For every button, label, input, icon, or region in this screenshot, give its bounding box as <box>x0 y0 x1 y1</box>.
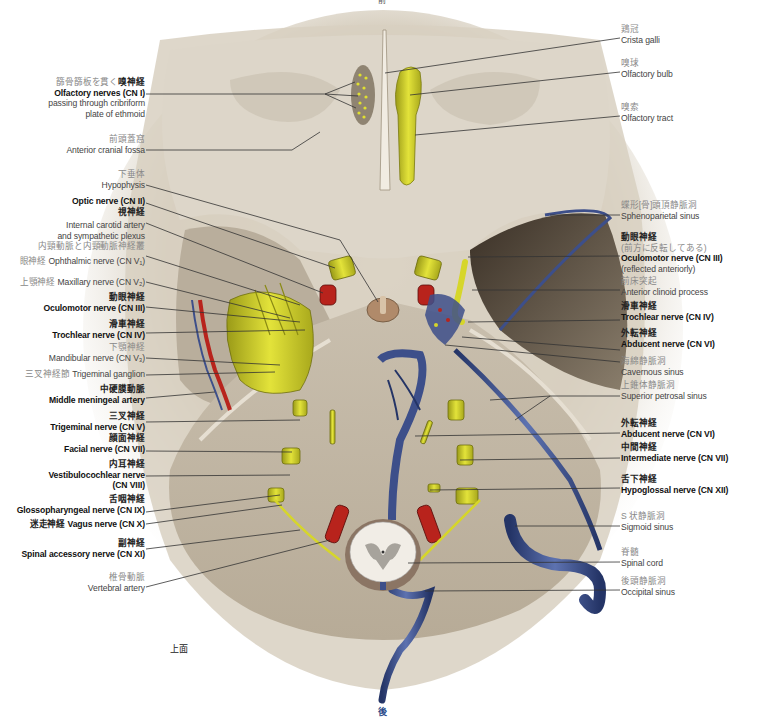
label-trochlear-nerve-right: 滑車神経 Trochlear nerve (CN IV) <box>621 301 714 322</box>
label-jp: 副神経 <box>21 538 145 549</box>
label-superior-petrosal-sinus: 上錐体静脈洞 Superior petrosal sinus <box>621 380 707 401</box>
label-mandibular-nerve: 下顎神経 Mandibular nerve (CN V₃) <box>49 342 145 363</box>
label-en: Mandibular nerve (CN V₃) <box>49 353 145 364</box>
label-jp: 眼神経 <box>20 256 47 266</box>
label-oculomotor-nerve-left: 動眼神経 Oculomotor nerve (CN III) <box>43 292 145 313</box>
label-jp: S 状静脈洞 <box>621 511 673 522</box>
label-jp: 三叉神経 <box>50 411 145 422</box>
label-hypophysis: 下垂体 Hypophysis <box>102 169 145 190</box>
label-jp: 舌下神経 <box>621 474 728 485</box>
label-jp: 動眼神経 <box>621 232 723 243</box>
label-sphenoparietal-sinus: 蝶形[骨]頭頂静脈洞 Sphenoparietal sinus <box>621 200 699 221</box>
label-en: Spinal cord <box>621 558 663 569</box>
label-en: Hypoglossal nerve (CN XII) <box>621 485 728 496</box>
label-jp: 前床突起 <box>621 276 708 287</box>
label-en-line2: passing through cribriform <box>48 98 145 109</box>
spinal-cord <box>345 519 421 591</box>
label-jp: 嗅球 <box>621 58 673 69</box>
label-en: Hypophysis <box>102 180 145 191</box>
label-olfactory-bulb: 嗅球 Olfactory bulb <box>621 58 673 79</box>
label-en: Glossopharyngeal nerve (CN IX) <box>17 505 145 516</box>
label-en: Occipital sinus <box>621 587 675 598</box>
label-glossopharyngeal-nerve: 舌咽神経 Glossopharyngeal nerve (CN IX) <box>17 494 145 515</box>
view-label-superior: 上面 <box>170 642 188 655</box>
label-jp-line2: (前方に反転してある) <box>621 243 723 254</box>
label-jp: 外転神経 <box>621 328 715 339</box>
label-en: Superior petrosal sinus <box>621 391 707 402</box>
label-en: Oculomotor nerve (CN III) <box>43 303 145 314</box>
label-en: Anterior cranial fossa <box>66 145 145 156</box>
label-jp: 外転神経 <box>621 418 715 429</box>
label-jp: 鶏冠 <box>621 24 660 35</box>
label-facial-nerve: 顔面神経 Facial nerve (CN VII) <box>64 433 145 454</box>
label-en: Cavernous sinus <box>621 367 684 378</box>
label-vagus-nerve: 迷走神経 Vagus nerve (CN X) <box>30 519 145 530</box>
label-oculomotor-nerve-reflected: 動眼神経 (前方に反転してある) Oculomotor nerve (CN II… <box>621 232 723 274</box>
label-jp: 前頭蓋窩 <box>66 134 145 145</box>
label-jp-bold: 嗅神経 <box>118 77 145 87</box>
label-en: Middle meningeal artery <box>49 395 145 406</box>
label-jp: 上錐体静脈洞 <box>621 380 707 391</box>
label-occipital-sinus: 後頭静脈洞 Occipital sinus <box>621 576 675 597</box>
label-jp: 迷走神経 <box>30 519 66 529</box>
label-en-line3: plate of ethmoid <box>48 109 145 120</box>
label-ophthalmic-nerve: 眼神経 Ophthalmic nerve (CN V₁) <box>20 256 146 267</box>
label-en: Oculomotor nerve (CN III) <box>621 253 723 264</box>
label-spinal-accessory-nerve: 副神経 Spinal accessory nerve (CN XI) <box>21 538 145 559</box>
label-en: Vagus nerve (CN X) <box>68 519 145 529</box>
label-vertebral-artery: 椎骨動脈 Vertebral artery <box>88 572 145 593</box>
label-en: Olfactory nerves (CN I) <box>48 88 145 99</box>
label-olfactory-nerves: 篩骨篩板を貫く嗅神経 Olfactory nerves (CN I) passi… <box>48 77 145 119</box>
label-abducent-nerve-lower: 外転神経 Abducent nerve (CN VI) <box>621 418 715 439</box>
label-en-line2: (reflected anteriorly) <box>621 264 723 275</box>
label-en: Trigeminal nerve (CN V) <box>50 422 145 433</box>
label-anterior-cranial-fossa: 前頭蓋窩 Anterior cranial fossa <box>66 134 145 155</box>
label-en: Olfactory bulb <box>621 69 673 80</box>
label-en: Abducent nerve (CN VI) <box>621 429 715 440</box>
label-internal-carotid-artery: Internal carotid artery and sympathetic … <box>38 220 145 252</box>
label-en: Sigmoid sinus <box>621 522 673 533</box>
label-intermediate-nerve: 中間神経 Intermediate nerve (CN VII) <box>621 442 728 463</box>
label-jp: 滑車神経 <box>621 301 714 312</box>
label-jp: 中硬膜動脈 <box>49 384 145 395</box>
label-en-line2: and sympathetic plexus <box>38 231 145 242</box>
label-en: Trochlear nerve (CN IV) <box>52 330 145 341</box>
label-middle-meningeal-artery: 中硬膜動脈 Middle meningeal artery <box>49 384 145 405</box>
label-trochlear-nerve-left: 滑車神経 Trochlear nerve (CN IV) <box>52 319 145 340</box>
label-optic-nerve: Optic nerve (CN II) 視神経 <box>72 196 145 217</box>
label-en: Facial nerve (CN VII) <box>64 444 145 455</box>
label-crista-galli: 鶏冠 Crista galli <box>621 24 660 45</box>
label-jp: 舌咽神経 <box>17 494 145 505</box>
label-en: Intermediate nerve (CN VII) <box>621 453 728 464</box>
cribriform-plate <box>351 65 375 125</box>
label-jp: 中間神経 <box>621 442 728 453</box>
label-cavernous-sinus: 海綿静脈洞 Cavernous sinus <box>621 356 684 377</box>
anatomy-figure: 篩骨篩板を貫く嗅神経 Olfactory nerves (CN I) passi… <box>0 0 766 720</box>
label-en: Spinal accessory nerve (CN XI) <box>21 549 145 560</box>
label-anterior-clinoid-process: 前床突起 Anterior clinoid process <box>621 276 708 297</box>
label-en: Crista galli <box>621 35 660 46</box>
label-jp: 後頭静脈洞 <box>621 576 675 587</box>
label-en: Ophthalmic nerve (CN V₁) <box>49 256 146 266</box>
label-en: Sphenoparietal sinus <box>621 211 699 222</box>
orientation-anterior: 前 <box>378 0 386 5</box>
label-en: Maxillary nerve (CN V₂) <box>58 277 145 287</box>
label-maxillary-nerve: 上顎神経 Maxillary nerve (CN V₂) <box>20 277 145 288</box>
label-abducent-nerve-upper: 外転神経 Abducent nerve (CN VI) <box>621 328 715 349</box>
label-jp: 下顎神経 <box>49 342 145 353</box>
label-jp: 蝶形[骨]頭頂静脈洞 <box>621 200 699 211</box>
label-jp: 視神経 <box>72 207 145 218</box>
label-jp: 嗅索 <box>621 102 673 113</box>
label-jp: 海綿静脈洞 <box>621 356 684 367</box>
label-jp: 椎骨動脈 <box>88 572 145 583</box>
label-jp: 内頸動脈と内頸動脈神経叢 <box>38 241 145 252</box>
label-jp: 顔面神経 <box>64 433 145 444</box>
label-en: Vertebral artery <box>88 583 145 594</box>
label-hypoglossal-nerve: 舌下神経 Hypoglossal nerve (CN XII) <box>621 474 728 495</box>
label-jp: 篩骨篩板を貫く <box>56 77 118 87</box>
label-en: Internal carotid artery <box>38 220 145 231</box>
label-en: Trigeminal ganglion <box>72 369 145 379</box>
label-en: Trochlear nerve (CN IV) <box>621 312 714 323</box>
label-olfactory-tract: 嗅索 Olfactory tract <box>621 102 673 123</box>
label-jp: 下垂体 <box>102 169 145 180</box>
